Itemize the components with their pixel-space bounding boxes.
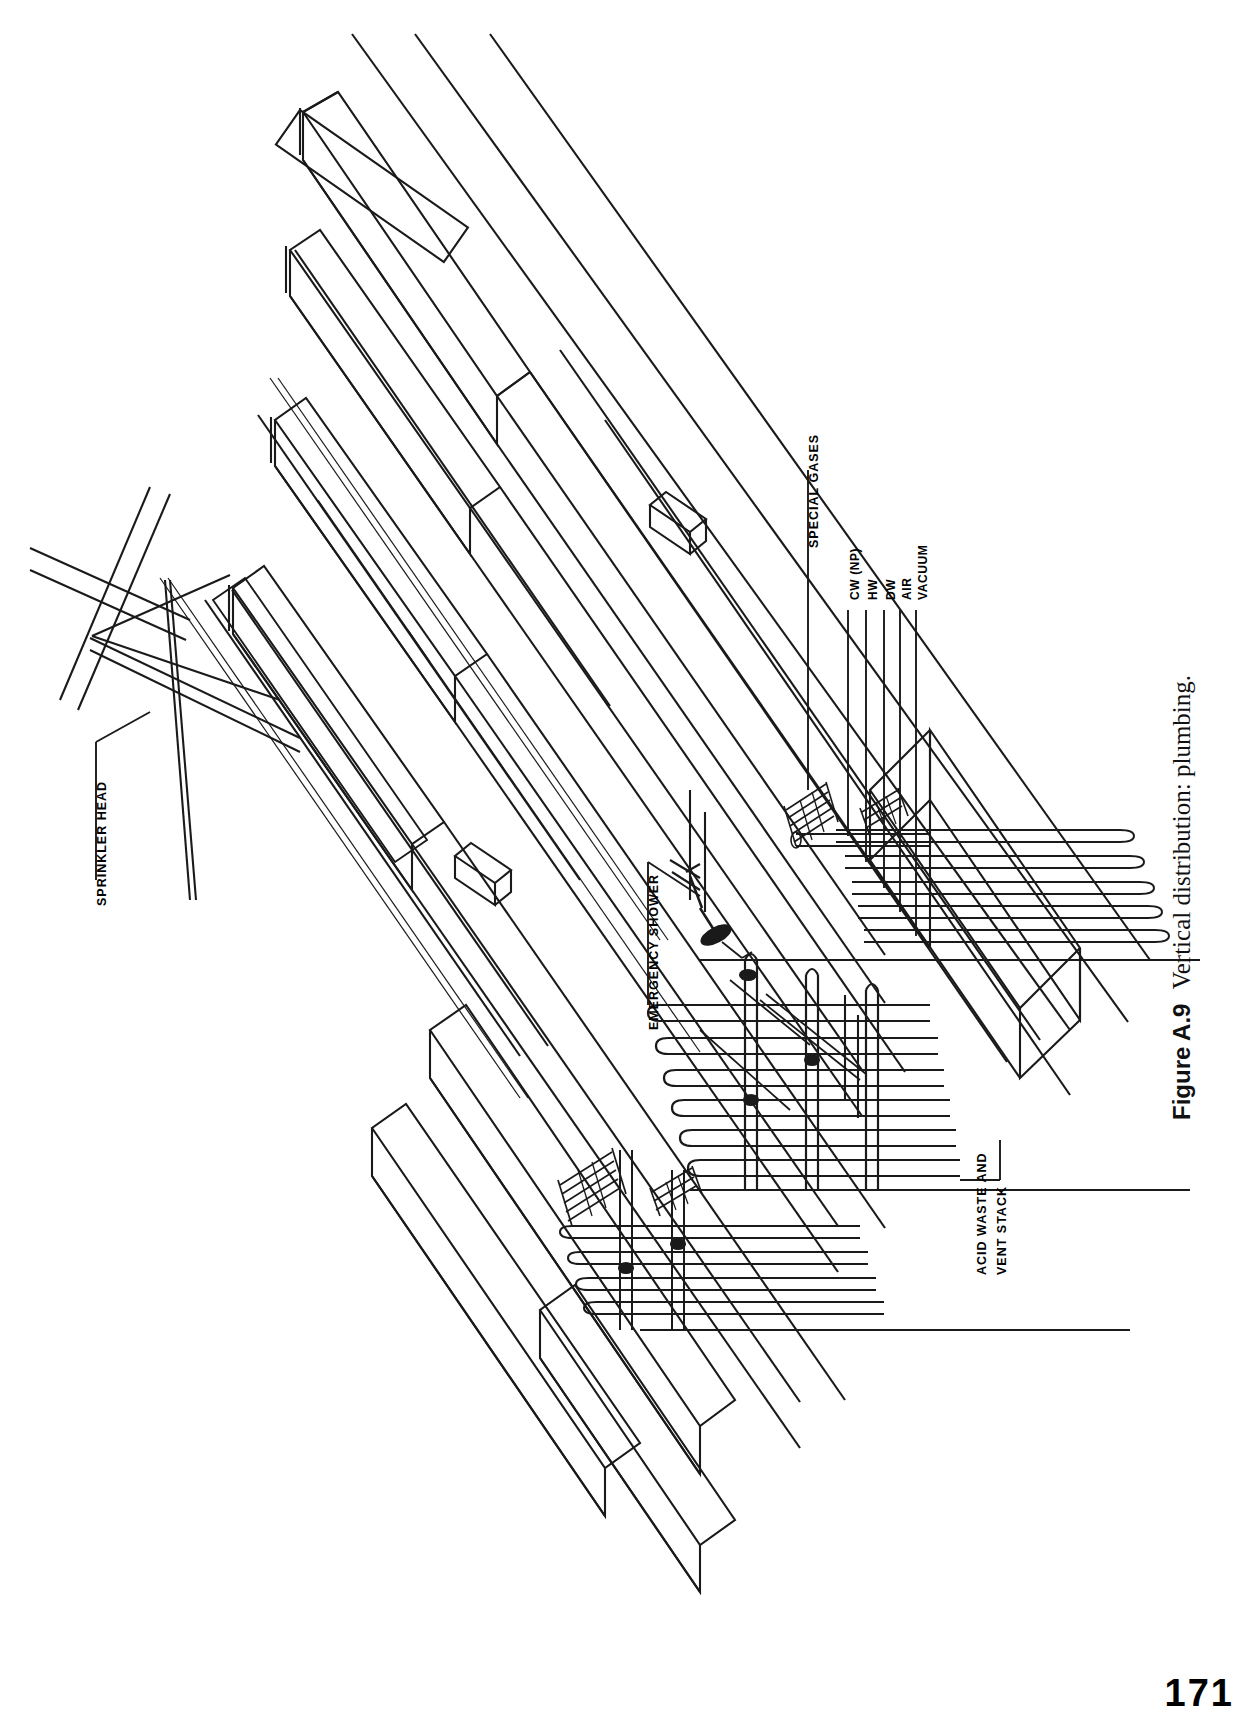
- figure-root: SPRINKLER HEAD EMERGENCY SHOWER SPECIAL …: [0, 0, 1260, 1733]
- roof-slab-lines: [352, 34, 1150, 1030]
- callout-cw-np: CW (NP): [849, 548, 861, 600]
- vertical-shaft-frame: [870, 730, 1080, 1078]
- callout-air: AIR: [901, 578, 913, 600]
- lower-manifold-second: [650, 1166, 702, 1216]
- pipe-bundle-elbows: [1120, 830, 1169, 942]
- stepped-roof-boxes: [213, 92, 530, 890]
- figure-number: Figure A.9: [1168, 1004, 1195, 1120]
- lower-right-walls: [930, 730, 1080, 1020]
- plumbing-axonometric-drawing: [0, 0, 1260, 1733]
- roof-planes-right: [530, 350, 1070, 1095]
- callout-vacuum: VACUUM: [917, 545, 929, 600]
- page-number: 171: [1165, 1672, 1234, 1715]
- sprinkler-cross-lines: [30, 487, 1100, 710]
- pipe-bundle-lower-caps: [560, 1226, 596, 1314]
- callout-special-gases: SPECIAL GASES: [808, 434, 821, 548]
- figure-caption: Figure A.9Vertical distribution: plumbin…: [1168, 675, 1196, 1120]
- callout-hw: HW: [867, 579, 879, 600]
- sprinkler-drop-lines: [160, 378, 700, 1098]
- callout-acid-waste-line1: ACID WASTE AND: [976, 1152, 989, 1275]
- acid-waste-pipe-bundle: [660, 1005, 960, 1176]
- callout-sprinkler-head: SPRINKLER HEAD: [96, 781, 109, 906]
- emergency-shower-assembly: [670, 860, 752, 958]
- callout-emergency-shower: EMERGENCY SHOWER: [648, 874, 661, 1030]
- callout-acid-waste-line2: VENT STACK: [996, 1186, 1009, 1275]
- lower-manifold-cluster: [558, 1148, 626, 1226]
- figure-caption-text: Vertical distribution: plumbing.: [1168, 675, 1195, 990]
- callout-dw: DW: [885, 579, 897, 600]
- acid-waste-branches: [700, 980, 866, 1110]
- acid-waste-bundle-caps: [648, 1005, 700, 1176]
